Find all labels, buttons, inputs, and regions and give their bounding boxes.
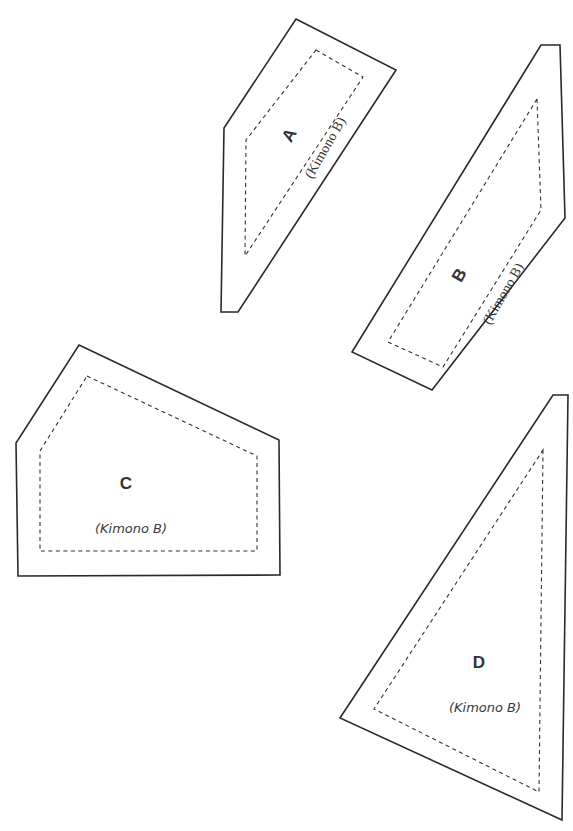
piece-a-letter: A [278,125,301,145]
piece-d-letter: D [473,653,485,672]
pattern-piece-c: C (Kimono B) [16,345,280,576]
piece-b-cut-line [352,45,565,390]
pattern-piece-a: A (Kimono B) [221,19,396,312]
piece-c-note: (Kimono B) [95,521,167,536]
piece-c-cut-line [16,345,280,576]
pattern-piece-d: D (Kimono B) [340,395,568,820]
piece-a-note: (Kimono B) [302,114,350,181]
pattern-sheet: A (Kimono B) B (Kimono B) C (Kimono B) D… [0,0,573,831]
piece-d-cut-line [340,395,568,820]
piece-d-seam-line [374,450,543,792]
piece-b-seam-line [388,99,541,367]
piece-a-seam-line [245,50,363,256]
piece-b-letter: B [448,265,471,285]
pattern-piece-b: B (Kimono B) [352,45,565,390]
piece-c-letter: C [120,474,132,493]
piece-d-note: (Kimono B) [449,700,521,715]
